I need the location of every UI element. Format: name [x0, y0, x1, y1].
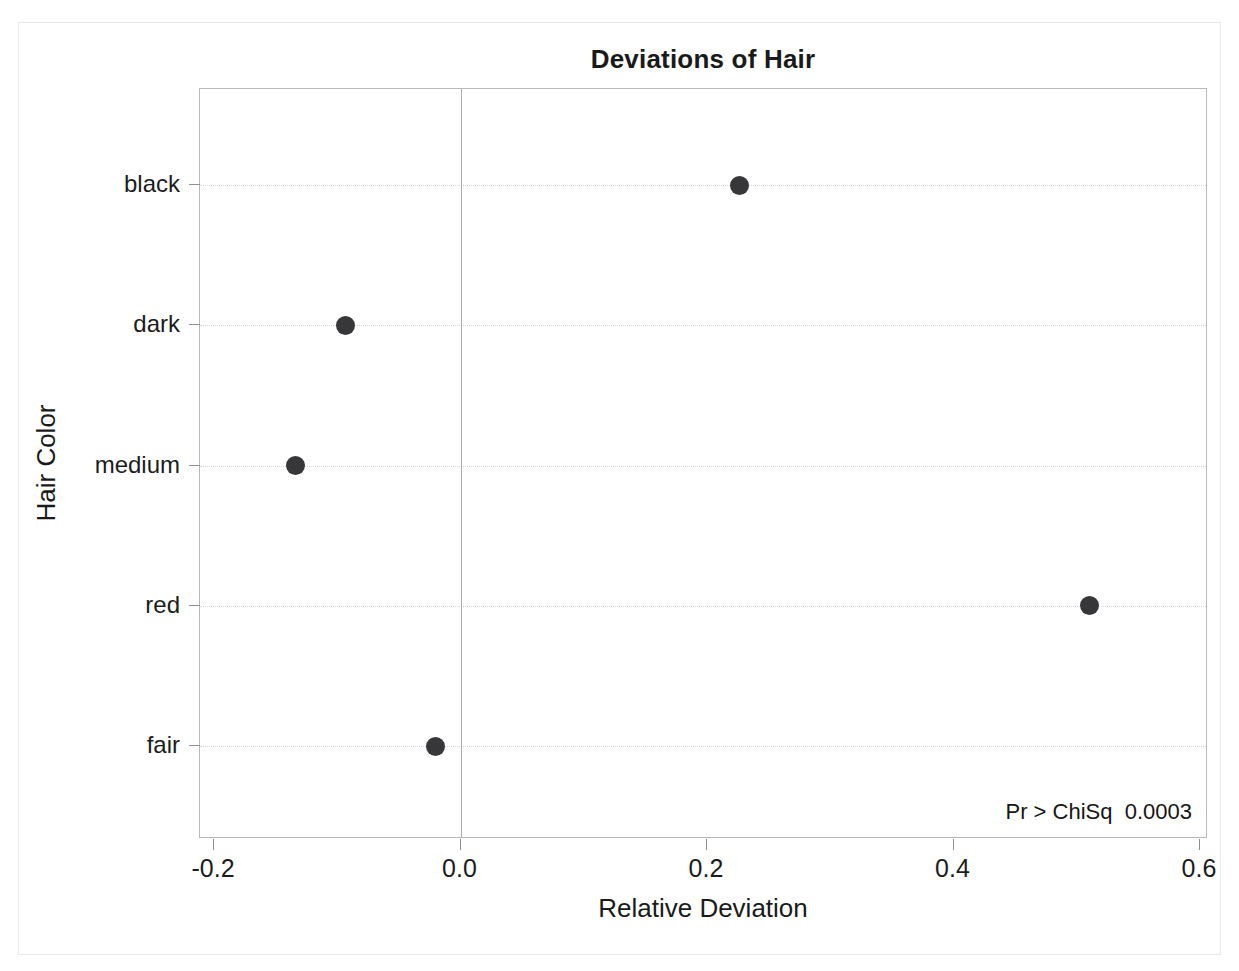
x-tick-label--0.2: -0.2	[191, 854, 234, 883]
plot-inner	[200, 89, 1206, 837]
gridline-black	[200, 185, 1206, 186]
data-point-red[interactable]	[1080, 596, 1099, 615]
y-tick-dark	[189, 324, 200, 325]
x-tick-label-0.6: 0.6	[1182, 854, 1217, 883]
clipped-header-text	[0, 0, 1239, 10]
gridline-medium	[200, 466, 1206, 467]
y-tick-label-medium: medium	[95, 451, 180, 479]
data-point-medium[interactable]	[286, 456, 305, 475]
x-axis-title: Relative Deviation	[199, 893, 1207, 924]
x-tick-label-0.4: 0.4	[935, 854, 970, 883]
chisq-annotation: Pr > ChiSq 0.0003	[1005, 799, 1192, 825]
data-point-dark[interactable]	[336, 316, 355, 335]
chart-page: Deviations of Hair Hair Color Pr > ChiSq…	[0, 0, 1239, 971]
x-tick-label-0.2: 0.2	[689, 854, 724, 883]
y-tick-fair	[189, 745, 200, 746]
x-tick-0.2	[706, 839, 707, 850]
y-tick-red	[189, 605, 200, 606]
x-tick-0.0	[460, 839, 461, 850]
gridline-fair	[200, 746, 1206, 747]
page-title: Deviations of Hair	[199, 44, 1207, 75]
y-tick-label-dark: dark	[133, 310, 180, 338]
y-tick-medium	[189, 465, 200, 466]
x-tick-0.6	[1199, 839, 1200, 850]
plot-area: Pr > ChiSq 0.0003	[199, 88, 1207, 838]
zero-reference-line	[461, 89, 462, 837]
gridline-red	[200, 606, 1206, 607]
x-tick-label-0.0: 0.0	[442, 854, 477, 883]
y-tick-black	[189, 184, 200, 185]
data-point-fair[interactable]	[426, 737, 445, 756]
y-tick-label-fair: fair	[147, 731, 180, 759]
y-axis-title: Hair Color	[28, 88, 64, 838]
y-tick-label-black: black	[124, 170, 180, 198]
x-tick--0.2	[213, 839, 214, 850]
data-point-black[interactable]	[730, 176, 749, 195]
x-tick-0.4	[953, 839, 954, 850]
y-tick-label-red: red	[145, 591, 180, 619]
